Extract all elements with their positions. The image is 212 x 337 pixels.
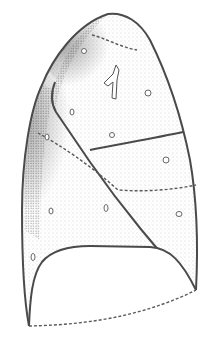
base-curve — [29, 246, 196, 326]
lung-illustration — [0, 0, 212, 337]
lung-drawing — [0, 0, 212, 337]
